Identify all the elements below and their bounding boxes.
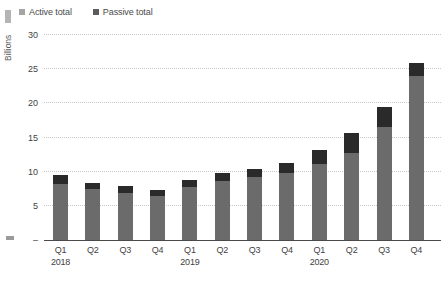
y-tick-label-25: 25 xyxy=(0,64,38,74)
legend-swatch-icon xyxy=(93,9,99,15)
segment-passive-total xyxy=(344,133,359,153)
x-tick-label-q4-2020: Q4 xyxy=(401,245,431,255)
x-year-label-2018: 2018 xyxy=(46,257,76,267)
bar-q1-2018 xyxy=(53,175,68,240)
y-axis: –51015202530 xyxy=(0,0,38,250)
chart-legend: Active totalPassive total xyxy=(19,7,153,17)
x-tick-label-q3-2019: Q3 xyxy=(240,245,270,255)
bar-q3-2020 xyxy=(377,107,392,240)
x-year-label-2020: 2020 xyxy=(304,257,334,267)
legend-item-passive-total: Passive total xyxy=(93,7,153,17)
bar-q3-2019 xyxy=(247,169,262,240)
segment-active-total xyxy=(182,187,197,240)
bar-q2-2019 xyxy=(215,173,230,240)
chart-canvas: Active totalPassive total Billions –5101… xyxy=(0,0,446,287)
segment-passive-total xyxy=(118,186,133,193)
segment-passive-total xyxy=(377,107,392,128)
bar-q1-2020 xyxy=(312,150,327,240)
segment-active-total xyxy=(279,173,294,240)
gridline-25 xyxy=(44,68,441,69)
segment-passive-total xyxy=(312,150,327,164)
x-tick-label-q1-2018: Q1 xyxy=(46,245,76,255)
y-tick-label-15: 15 xyxy=(0,133,38,143)
segment-passive-total xyxy=(85,183,100,190)
segment-active-total xyxy=(53,184,68,240)
y-tick-label-30: 30 xyxy=(0,30,38,40)
x-tick-label-q1-2020: Q1 xyxy=(304,245,334,255)
x-tick-label-q4-2018: Q4 xyxy=(143,245,173,255)
segment-passive-total xyxy=(182,180,197,188)
segment-passive-total xyxy=(279,163,294,173)
bar-q4-2019 xyxy=(279,163,294,240)
x-tick-label-q2-2018: Q2 xyxy=(78,245,108,255)
x-tick-label-q2-2019: Q2 xyxy=(207,245,237,255)
x-tick-label-q4-2019: Q4 xyxy=(272,245,302,255)
x-tick-label-q1-2019: Q1 xyxy=(175,245,205,255)
segment-passive-total xyxy=(53,175,68,184)
x-tick-label-q3-2018: Q3 xyxy=(110,245,140,255)
segment-passive-total xyxy=(247,169,262,177)
x-tick-label-q2-2020: Q2 xyxy=(337,245,367,255)
segment-active-total xyxy=(215,181,230,240)
segment-active-total xyxy=(85,189,100,240)
bar-q4-2020 xyxy=(409,63,424,240)
y-tick-label-0: – xyxy=(0,235,38,245)
bar-q4-2018 xyxy=(150,190,165,240)
legend-item-label: Passive total xyxy=(103,7,153,17)
bar-q1-2019 xyxy=(182,180,197,240)
segment-active-total xyxy=(377,127,392,240)
segment-active-total xyxy=(312,164,327,240)
y-tick-label-10: 10 xyxy=(0,167,38,177)
y-tick-label-20: 20 xyxy=(0,98,38,108)
segment-passive-total xyxy=(215,173,230,181)
segment-active-total xyxy=(118,193,133,240)
bar-q3-2018 xyxy=(118,186,133,240)
segment-passive-total xyxy=(409,63,424,76)
gridline-20 xyxy=(44,102,441,103)
segment-active-total xyxy=(409,76,424,240)
segment-active-total xyxy=(344,153,359,240)
plot-area xyxy=(44,35,441,241)
y-tick-label-5: 5 xyxy=(0,201,38,211)
x-tick-label-q3-2020: Q3 xyxy=(369,245,399,255)
bar-q2-2018 xyxy=(85,183,100,240)
gridline-30 xyxy=(44,34,441,35)
segment-active-total xyxy=(150,196,165,240)
segment-active-total xyxy=(247,177,262,240)
x-year-label-2019: 2019 xyxy=(175,257,205,267)
bar-q2-2020 xyxy=(344,133,359,240)
